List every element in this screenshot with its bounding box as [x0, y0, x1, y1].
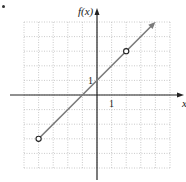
y-tick-label: 1: [88, 76, 93, 86]
function-line: [39, 25, 153, 139]
x-axis-label: x: [182, 98, 186, 109]
x-tick-label: 1: [109, 99, 114, 109]
open-point-marker: [36, 136, 41, 141]
chart-plot: [0, 0, 186, 182]
y-axis-arrow-icon: [95, 8, 100, 15]
y-axis-label: f(x): [78, 6, 93, 17]
open-point-marker: [124, 49, 129, 54]
